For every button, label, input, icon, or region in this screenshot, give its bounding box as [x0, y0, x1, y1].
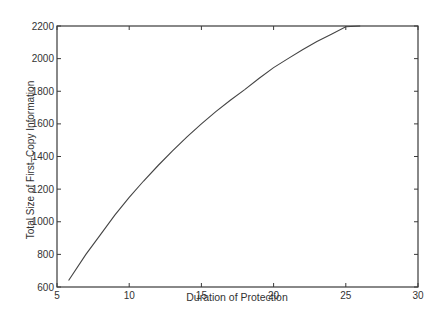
x-tick-label: 5 [54, 290, 60, 301]
y-tick-label: 2200 [32, 21, 55, 32]
x-tick-label: 10 [124, 290, 136, 301]
y-axis-ticks: 6008001000120014001600180020002200 [32, 21, 418, 293]
plot-border [57, 26, 418, 287]
y-tick-label: 800 [37, 249, 54, 260]
x-axis-ticks: 51015202530 [54, 26, 424, 301]
x-axis-label: Duration of Protection [186, 291, 288, 303]
series-layer [69, 26, 361, 281]
plot-frame [57, 26, 418, 287]
y-tick-label: 2000 [32, 53, 55, 64]
chart-canvas: 51015202530 6008001000120014001600180020… [0, 0, 444, 319]
y-tick-label: 600 [37, 282, 54, 293]
x-tick-label: 30 [412, 290, 424, 301]
line-chart: 51015202530 6008001000120014001600180020… [0, 0, 444, 319]
x-tick-label: 25 [340, 290, 352, 301]
series-line [69, 26, 361, 281]
y-axis-label: Total Size of First–Copy Information [25, 81, 36, 239]
